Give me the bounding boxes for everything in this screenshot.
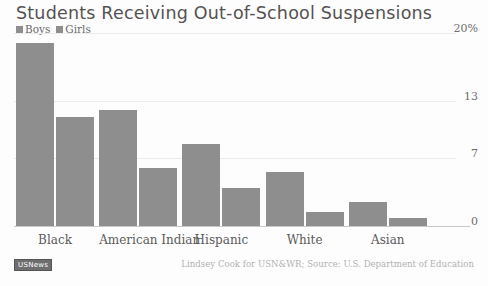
bar-boys-asian — [349, 202, 387, 226]
bar-girls-white — [306, 212, 344, 226]
x-axis-line — [14, 226, 470, 227]
bar-boys-hispanic — [182, 144, 220, 226]
gridline — [14, 33, 456, 34]
usnews-logo: USNews — [14, 259, 52, 271]
x-axis-label-asian: Asian — [349, 233, 427, 247]
bar-girls-black — [56, 117, 94, 226]
bar-boys-black — [16, 43, 54, 226]
bar-girls-hispanic — [222, 188, 260, 226]
y-axis-tick-label: 20% — [454, 23, 478, 34]
y-axis-tick-label: 0 — [471, 216, 478, 227]
plot-area: 071320% BlackAmerican IndianHispanicWhit… — [0, 0, 488, 286]
y-axis-tick-label: 7 — [471, 148, 478, 159]
x-axis-label-hispanic: Hispanic — [182, 233, 260, 247]
bar-girls-american-indian — [139, 168, 177, 226]
y-axis-tick-label: 13 — [464, 91, 478, 102]
source-attribution: Lindsey Cook for USN&WR; Source: U.S. De… — [181, 259, 474, 269]
chart-figure: Students Receiving Out-of-School Suspens… — [0, 0, 488, 286]
x-axis-label-white: White — [266, 233, 344, 247]
bar-girls-asian — [389, 218, 427, 226]
x-axis-label-american-indian: American Indian — [99, 233, 177, 247]
bar-boys-white — [266, 172, 304, 226]
gridline — [14, 101, 456, 102]
bar-boys-american-indian — [99, 110, 137, 226]
x-axis-label-black: Black — [16, 233, 94, 247]
